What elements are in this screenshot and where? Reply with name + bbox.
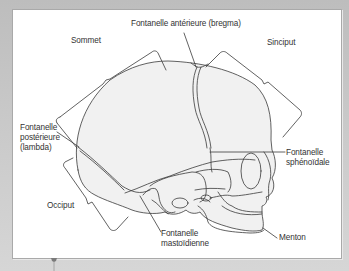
marker-pin-icon [51,258,57,271]
leader-menton [263,228,277,238]
skull-outline [76,61,275,231]
label-fontanelle-posterieure: Fontanelle postérieure (lambda) [20,123,60,153]
label-fontanelle-mastoidienne: Fontanelle mastoïdienne [161,229,209,249]
label-fontanelle-anterieure: Fontanelle antérieure (bregma) [131,19,241,29]
label-occiput: Occiput [47,201,74,211]
label-sinciput: Sinciput [267,38,295,48]
label-menton: Menton [279,233,306,243]
label-sommet: Sommet [71,36,101,46]
label-fontanelle-sphenoidale: Fontanelle sphénoïdale [286,148,330,168]
leader-lambda [57,132,79,147]
